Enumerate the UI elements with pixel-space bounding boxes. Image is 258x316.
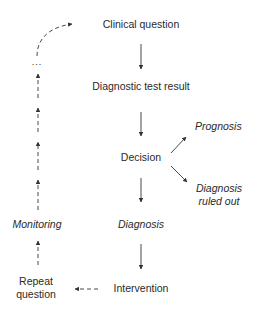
arrow-curve-to-clinical-question <box>37 24 72 56</box>
node-monitoring: Monitoring <box>12 218 61 231</box>
node-repeat-question-line1: Repeat <box>19 275 53 288</box>
node-diagnostic-test-result: Diagnostic test result <box>92 80 189 93</box>
node-repeat-question-line2: question <box>16 288 56 301</box>
node-clinical-question: Clinical question <box>103 18 179 31</box>
ellipsis-marker: ... <box>32 56 43 69</box>
node-prognosis: Prognosis <box>195 120 242 133</box>
node-decision: Decision <box>121 151 161 164</box>
arrow-decision-to-prognosis <box>171 137 186 153</box>
node-diagnosis-ruled-out-line2: ruled out <box>199 195 240 208</box>
node-intervention: Intervention <box>114 282 169 295</box>
node-diagnosis: Diagnosis <box>118 218 164 231</box>
node-diagnosis-ruled-out-line1: Diagnosis <box>196 182 242 195</box>
arrow-decision-to-ruled-out <box>171 166 187 182</box>
